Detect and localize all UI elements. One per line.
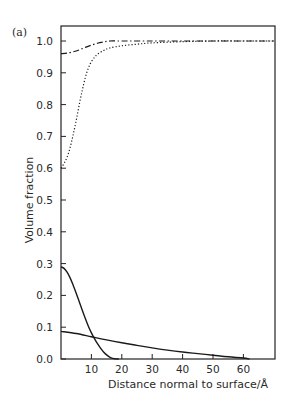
x-tick-label: 60 [237,363,250,375]
y-tick-label: 0.1 [36,321,53,333]
y-tick-label: 0.6 [36,162,53,174]
y-tick-label: 0.7 [36,130,53,142]
x-axis-label: Distance normal to surface/Å [108,378,269,391]
series-solid-line [61,267,119,359]
series-dashdot-line [61,41,274,54]
y-tick-label: 0.0 [36,353,53,365]
x-tick-label: 10 [85,363,98,375]
y-tick-label: 0.4 [36,226,53,238]
y-tick-label: 0.9 [36,67,53,79]
y-tick-label: 0.2 [36,289,53,301]
y-axis-label: Volume fraction [23,157,36,244]
volume-fraction-chart: (a) 0.00.10.20.30.40.50.60.70.80.91.0 10… [0,0,290,415]
series-dotted-line [61,41,274,168]
data-series [61,41,274,359]
x-tick-label: 50 [206,363,219,375]
y-tick-label: 0.5 [36,194,53,206]
y-tick-label: 1.0 [36,35,53,47]
x-tick-label: 20 [115,363,128,375]
x-tick-label: 40 [176,363,189,375]
y-tick-label: 0.8 [36,99,53,111]
x-tick-label: 30 [146,363,159,375]
panel-label: (a) [12,26,27,39]
y-tick-label: 0.3 [36,258,53,270]
series-solid-line [61,331,249,359]
plot-frame [61,26,275,359]
